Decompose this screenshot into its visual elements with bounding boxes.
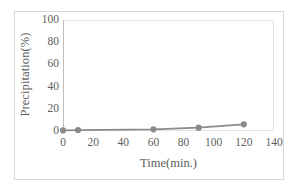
x-axis-title: Time(min.) xyxy=(63,156,274,171)
y-axis-title: Precipitation(%) xyxy=(18,10,33,140)
x-tick-label: 140 xyxy=(254,137,294,149)
chart-figure: 020406080100 020406080100120140 Precipit… xyxy=(0,0,299,191)
